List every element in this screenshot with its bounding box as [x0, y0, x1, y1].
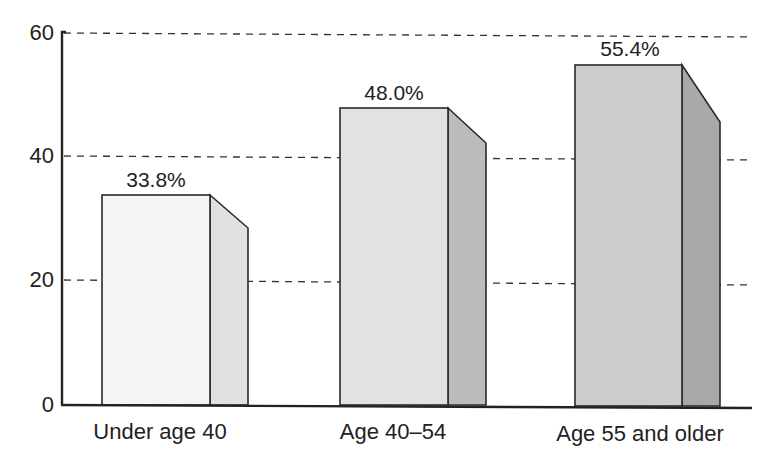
- category-label-under-40: Under age 40: [93, 419, 226, 444]
- y-axis-ticks: 60 40 20 0: [30, 20, 54, 417]
- bar-under-40: [102, 195, 248, 405]
- bar-55-older: [575, 65, 720, 406]
- category-label-55-older: Age 55 and older: [556, 421, 724, 446]
- x-axis-labels: Under age 40 Age 40–54 Age 55 and older: [93, 419, 723, 446]
- y-tick-40: 40: [30, 143, 54, 168]
- y-tick-20: 20: [30, 267, 54, 292]
- y-tick-60: 60: [30, 20, 54, 45]
- value-label-55-older: 55.4%: [600, 37, 660, 60]
- y-axis: [62, 32, 66, 405]
- y-tick-0: 0: [42, 392, 54, 417]
- value-label-40-54: 48.0%: [364, 81, 424, 104]
- bar-40-54: [340, 108, 486, 405]
- value-label-under-40: 33.8%: [126, 168, 186, 191]
- bar-chart: 60 40 20 0 33.8% 48.0% 55.4% Under age 4…: [0, 0, 774, 458]
- category-label-40-54: Age 40–54: [340, 419, 446, 444]
